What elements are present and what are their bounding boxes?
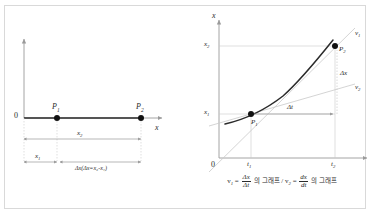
caption-separator: / [281,177,283,185]
x-tick-t2-label: t2 [331,161,335,170]
caption-v1-symbol: v1 [227,177,233,185]
left-x-axis-label: x [155,124,159,132]
x1-dimension-label: x1 [35,153,40,162]
graph-caption: v1 = Δx Δt 의 그래프 / v2 = dx dt 의 그래프 [187,174,372,190]
v1-line-label: v1 [355,30,360,39]
graph-point-p1 [248,111,254,117]
point-p2 [138,115,144,121]
caption-v2-symbol: v2 [285,177,291,185]
caption-v1-text: 의 그래프 [254,177,280,185]
left-origin-label: 0 [14,112,18,120]
graph-point-p2-label: P2 [339,46,346,55]
caption-equals-2: = [293,177,297,185]
caption-v2-fraction: dx dt [299,174,308,190]
x2-dimension-label: x2 [77,130,82,139]
caption-equals-1: = [235,177,239,185]
right-panel-graph: x 0 x2 x1 t1 t2 P1 P2 v1 v2 Δx Δt v1 = Δ… [187,6,372,208]
right-y-axis-label: x [212,12,216,20]
caption-v1-fraction: Δx Δt [242,174,251,190]
left-point-p2-label: P2 [136,103,144,113]
y-tick-x2-label: x2 [204,41,209,50]
y-tick-x1-label: x1 [204,109,209,118]
point-p1 [54,115,60,121]
v1-secant-line [209,28,355,172]
caption-v2-text: 의 그래프 [311,177,337,185]
right-origin-label: 0 [211,161,215,169]
left-panel-svg [5,6,191,210]
delta-x-dimension-label: Δx(Δx=x₂-x₁) [75,165,107,171]
delta-x-annotation: Δx [340,70,347,77]
x-tick-t1-label: t1 [247,161,251,170]
v2-line-label: v2 [355,84,360,93]
figure-frame: 0 x P1 P2 x2 x1 Δx(Δx=x₂-x₁) [4,5,366,209]
graph-point-p1-label: P1 [251,119,258,128]
position-curve [225,40,333,124]
left-panel-displacement: 0 x P1 P2 x2 x1 Δx(Δx=x₂-x₁) [5,6,191,208]
delta-t-annotation: Δt [287,104,293,111]
figure-root: 0 x P1 P2 x2 x1 Δx(Δx=x₂-x₁) [0,0,372,222]
v2-tangent-line [209,84,355,126]
left-point-p1-label: P1 [52,103,60,113]
graph-point-p2 [332,43,338,49]
